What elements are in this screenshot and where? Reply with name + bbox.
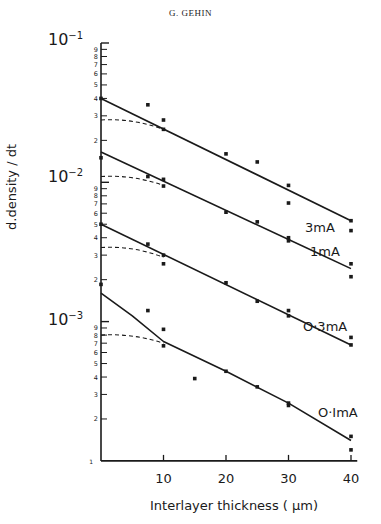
data-point-3ma	[99, 97, 103, 101]
data-point-3ma	[255, 160, 259, 164]
data-point-03ma	[255, 299, 259, 303]
data-point-03ma	[162, 262, 166, 266]
data-point-3ma	[349, 219, 353, 223]
data-point-1ma	[349, 275, 353, 279]
data-point-03ma	[349, 343, 353, 347]
data-point-03ma	[287, 314, 291, 318]
y-minor-tick-label: 5	[94, 81, 98, 89]
y-minor-tick-label: 7	[94, 200, 98, 208]
data-point-01ma	[193, 377, 197, 381]
data-point-1ma	[349, 262, 353, 266]
data-point-01ma	[349, 448, 353, 452]
data-point-3ma	[287, 184, 291, 188]
data-point-01ma	[162, 328, 166, 332]
y-minor-tick-label: 6	[94, 210, 98, 218]
data-point-1ma	[162, 184, 166, 188]
x-tick-label: 20	[218, 471, 235, 486]
y-origin-label: 1	[89, 458, 93, 465]
data-point-1ma	[162, 178, 166, 182]
data-point-1ma	[224, 210, 228, 214]
fit-line-3ma	[101, 98, 351, 220]
dashed-curve-01ma	[101, 335, 164, 343]
data-point-3ma	[162, 128, 166, 132]
y-minor-tick-label: 8	[94, 53, 98, 61]
fit-curve-01ma	[101, 293, 351, 440]
x-tick-label: 30	[280, 471, 297, 486]
data-point-03ma	[99, 222, 103, 226]
data-point-01ma	[255, 385, 259, 389]
data-point-01ma	[99, 283, 103, 287]
data-point-3ma	[224, 152, 228, 156]
y-minor-tick-label: 8	[94, 192, 98, 200]
data-point-03ma	[162, 253, 166, 257]
data-point-3ma	[146, 103, 150, 107]
data-point-03ma	[287, 309, 291, 313]
data-point-01ma	[287, 404, 291, 408]
data-point-03ma	[224, 281, 228, 285]
data-point-03ma	[349, 336, 353, 340]
data-point-01ma	[146, 309, 150, 313]
data-point-01ma	[162, 344, 166, 348]
data-point-01ma	[224, 369, 228, 373]
data-point-1ma	[146, 175, 150, 179]
data-point-01ma	[349, 435, 353, 439]
y-minor-tick-label: 2	[94, 415, 98, 423]
y-minor-tick-label: 7	[94, 61, 98, 69]
fit-line-1ma	[101, 152, 351, 269]
y-minor-tick-label: 5	[94, 360, 98, 368]
y-minor-tick-label: 2	[94, 137, 98, 145]
y-minor-tick-label: 6	[94, 349, 98, 357]
chart-canvas: 102030401987654329876543298765432	[0, 0, 381, 524]
data-point-3ma	[287, 201, 291, 205]
data-point-3ma	[162, 118, 166, 122]
x-tick-label: 10	[155, 471, 172, 486]
y-minor-tick-label: 3	[94, 112, 98, 120]
y-minor-tick-label: 6	[94, 70, 98, 78]
y-minor-tick-label: 4	[94, 95, 98, 103]
dashed-curve-03ma	[101, 247, 164, 257]
data-point-3ma	[349, 229, 353, 233]
y-minor-tick-label: 4	[94, 234, 98, 242]
fit-line-03ma	[101, 224, 351, 345]
data-point-1ma	[255, 220, 259, 224]
y-minor-tick-label: 3	[94, 391, 98, 399]
y-minor-tick-label: 3	[94, 252, 98, 260]
data-point-1ma	[99, 156, 103, 160]
y-minor-tick-label: 4	[94, 374, 98, 382]
x-tick-label: 40	[343, 471, 360, 486]
y-minor-tick-label: 2	[94, 276, 98, 284]
data-point-03ma	[146, 242, 150, 246]
data-point-1ma	[287, 239, 291, 243]
data-point-1ma	[287, 236, 291, 240]
y-minor-tick-label: 7	[94, 340, 98, 348]
y-minor-tick-label: 8	[94, 332, 98, 340]
y-minor-tick-label: 5	[94, 221, 98, 229]
